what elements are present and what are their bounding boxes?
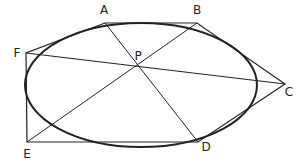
label-f: F: [14, 46, 21, 60]
diagonals-group: [26, 23, 285, 142]
label-a: A: [100, 3, 109, 17]
label-p: P: [134, 49, 141, 63]
circumscribed-hexagon: [26, 23, 285, 142]
label-b: B: [193, 3, 201, 17]
vertex-labels: ABCDEFP: [14, 3, 294, 161]
inscribed-ellipse: [25, 23, 257, 147]
label-d: D: [201, 140, 210, 154]
diagonal-ad: [105, 23, 198, 142]
diagonal-be: [27, 23, 197, 142]
label-e: E: [23, 147, 31, 161]
brianchon-diagram: ABCDEFP: [0, 0, 306, 164]
label-c: C: [285, 85, 293, 99]
